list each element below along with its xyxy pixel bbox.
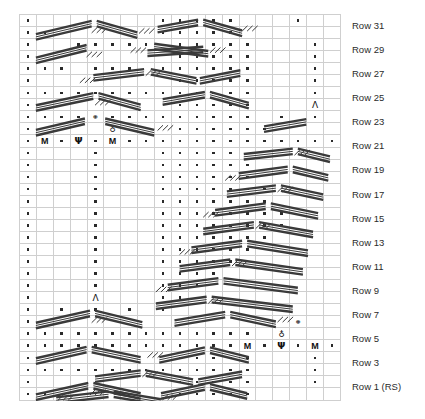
purl-dot-icon: [229, 332, 232, 335]
purl-dot-icon: [212, 248, 215, 251]
cell-blank: [222, 304, 239, 316]
row-label: Row 11: [352, 261, 384, 272]
cell-purl: [290, 135, 307, 147]
purl-dot-icon: [179, 381, 182, 384]
cell-purl: [239, 352, 256, 364]
cell-purl: [155, 135, 172, 147]
cell-purl: [205, 135, 222, 147]
cell-shaded: [273, 15, 290, 27]
cell-purl: [172, 27, 189, 39]
purl-dot-icon: [128, 140, 131, 143]
cell-shaded: [121, 255, 138, 267]
cell-shaded: [104, 231, 121, 243]
cell-blank: [239, 316, 256, 328]
cell-purl: [222, 364, 239, 376]
cell-purl: [155, 195, 172, 207]
cell-bobble-lower: ♁: [104, 123, 121, 135]
cell-shaded: [53, 147, 70, 159]
purl-dot-icon: [27, 212, 30, 215]
purl-dot-icon: [263, 140, 266, 143]
cell-shaded: [273, 39, 290, 51]
make-one-icon: M: [240, 340, 256, 351]
cell-purl: [87, 364, 104, 376]
purl-dot-icon: [179, 357, 182, 360]
cell-purl: [188, 27, 205, 39]
purl-dot-icon: [196, 260, 199, 263]
cell-purl: [87, 243, 104, 255]
cell-purl: [188, 147, 205, 159]
cell-blank: [324, 267, 341, 279]
cell-blank: [155, 39, 172, 51]
cell-purl: [239, 388, 256, 400]
cell-purl: [188, 280, 205, 292]
cell-shaded: [70, 267, 87, 279]
purl-dot-icon: [196, 212, 199, 215]
cell-bobble-upper: ⚭: [87, 111, 104, 123]
purl-dot-icon: [229, 248, 232, 251]
purl-dot-icon: [246, 200, 249, 203]
purl-dot-icon: [27, 393, 30, 396]
cell-purl: [172, 99, 189, 111]
cell-purl: [172, 183, 189, 195]
cell-shaded: [273, 27, 290, 39]
cell-shaded: [290, 63, 307, 75]
cell-blank: [104, 15, 121, 27]
cell-purl: [222, 15, 239, 27]
cell-blank: [138, 99, 155, 111]
purl-dot-icon: [246, 357, 249, 360]
cell-purl: [172, 280, 189, 292]
cell-purl: [222, 159, 239, 171]
cell-purl: [188, 352, 205, 364]
purl-dot-icon: [229, 55, 232, 58]
purl-dot-icon: [145, 140, 148, 143]
cell-shaded: [70, 171, 87, 183]
cell-purl: [239, 376, 256, 388]
purl-dot-icon: [246, 176, 249, 179]
purl-dot-icon: [44, 67, 47, 70]
cell-blank: [222, 267, 239, 279]
cell-blank: [155, 75, 172, 87]
cell-shaded: [104, 292, 121, 304]
chart-row: [20, 267, 341, 279]
purl-dot-icon: [179, 67, 182, 70]
cell-blank: [290, 219, 307, 231]
purl-dot-icon: [27, 357, 30, 360]
purl-dot-icon: [162, 296, 165, 299]
cell-blank: [239, 255, 256, 267]
cell-blank: [172, 304, 189, 316]
cell-shaded: [36, 207, 53, 219]
row-label: Row 17: [352, 189, 384, 200]
cell-blank: [121, 15, 138, 27]
chart-row: [20, 171, 341, 183]
chart-row: Λ: [20, 292, 341, 304]
cell-blank: [256, 316, 273, 328]
cell-blank: [155, 51, 172, 63]
cell-purl: [172, 15, 189, 27]
cell-blank: [70, 27, 87, 39]
purl-dot-icon: [94, 284, 97, 287]
cell-purl: [36, 111, 53, 123]
purl-dot-icon: [179, 176, 182, 179]
cell-make-one: M: [104, 135, 121, 147]
cell-purl: [222, 87, 239, 99]
cell-shaded: [324, 364, 341, 376]
cell-purl: [307, 63, 324, 75]
cell-blank: [256, 159, 273, 171]
cell-shaded: [121, 267, 138, 279]
cell-blank: [205, 316, 222, 328]
purl-dot-icon: [94, 369, 97, 372]
purl-dot-icon: [94, 152, 97, 155]
cell-shaded: [104, 159, 121, 171]
cell-blank: [256, 280, 273, 292]
purl-dot-icon: [263, 200, 266, 203]
cell-blank: [324, 316, 341, 328]
cell-purl: [155, 15, 172, 27]
cell-purl: [205, 207, 222, 219]
purl-dot-icon: [196, 31, 199, 34]
chart-row: [20, 364, 341, 376]
cell-purl: [53, 111, 70, 123]
cell-shaded: [256, 63, 273, 75]
purl-dot-icon: [162, 116, 165, 119]
cell-shaded: [104, 171, 121, 183]
cell-purl: [188, 15, 205, 27]
